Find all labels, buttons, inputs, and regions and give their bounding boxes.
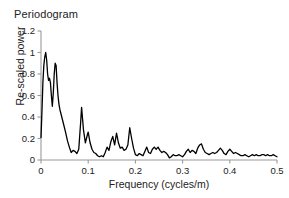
- x-tick-label: 0: [38, 165, 43, 176]
- y-tick-label: 0.2: [22, 133, 35, 144]
- y-tick-label: 0.4: [22, 111, 35, 122]
- y-tick-label: 0.8: [22, 68, 35, 79]
- data-series-line: [41, 53, 277, 158]
- data-series-group: [41, 53, 277, 158]
- y-tick-label: 0: [30, 154, 35, 165]
- y-tick-label: 1: [30, 47, 35, 58]
- periodogram-figure: Periodogram Re-scaled power Frequency (c…: [0, 0, 289, 198]
- x-tick-label: 0.3: [176, 165, 189, 176]
- x-tick-label: 0.2: [129, 165, 142, 176]
- x-axis: 00.10.20.30.40.5: [38, 160, 283, 176]
- y-tick-label: 1.2: [22, 25, 35, 36]
- x-tick-label: 0.5: [270, 165, 283, 176]
- y-axis: 00.20.40.60.811.2: [22, 25, 41, 165]
- x-tick-label: 0.4: [223, 165, 236, 176]
- x-tick-label: 0.1: [82, 165, 95, 176]
- plot-area: 00.20.40.60.811.2 00.10.20.30.40.5: [0, 0, 289, 198]
- y-tick-label: 0.6: [22, 90, 35, 101]
